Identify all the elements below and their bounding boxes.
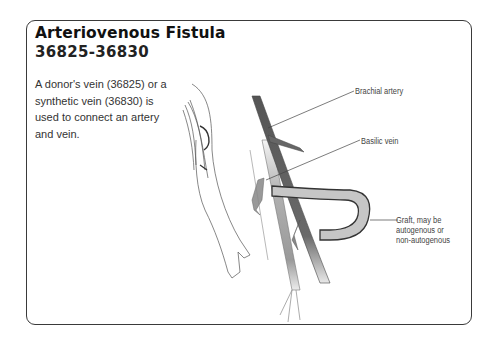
label-basilic-vein: Basilic vein — [361, 136, 398, 146]
label-graft-line1: Graft, may be — [396, 215, 441, 225]
label-brachial-artery: Brachial artery — [355, 86, 403, 96]
basilic-vein-shape — [250, 140, 300, 322]
label-graft-line3: non-autogenous — [396, 235, 450, 245]
arm-outline-icon — [183, 84, 250, 278]
leader-lines — [266, 91, 398, 220]
label-graft-line2: autogenous or — [396, 225, 444, 235]
arteriovenous-fistula-illustration — [0, 0, 501, 345]
